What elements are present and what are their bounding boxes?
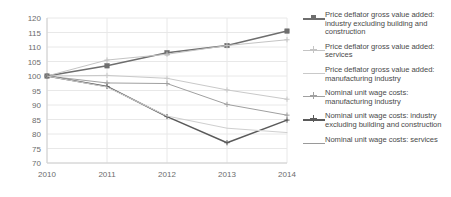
x-tick-label: 2013 [218,170,236,179]
y-tick-label: 70 [32,159,41,168]
legend-item[interactable]: Price deflator gross value added: servic… [303,43,451,60]
legend-item[interactable]: Nominal unit wage costs: industry exclud… [303,112,451,129]
x-tick-label: 2010 [38,170,56,179]
y-tick-label: 120 [28,14,42,23]
legend-item-label: Price deflator gross value added: servic… [325,43,451,60]
y-tick-label: 90 [32,101,41,110]
legend-item[interactable]: Price deflator gross value added: manufa… [303,66,451,83]
legend-item[interactable]: Nominal unit wage costs: manufacturing i… [303,89,451,106]
legend-item[interactable]: Nominal unit wage costs: services [303,136,451,148]
legend-marker-icon [303,139,325,148]
legend-item-label: Price deflator gross value added: manufa… [325,66,451,83]
x-axis-tick-labels: 20102011201220132014 [38,170,296,179]
x-tick-label: 2011 [98,170,116,179]
chart-screenshot: 120115110105100959085807570 201020112012… [0,0,451,197]
y-tick-label: 105 [28,58,42,67]
legend-marker-icon [303,69,325,78]
y-tick-label: 95 [32,87,41,96]
chart-plot-area: 120115110105100959085807570 201020112012… [0,0,300,197]
y-tick-label: 85 [32,116,41,125]
legend-item-label: Nominal unit wage costs: manufacturing i… [325,89,451,106]
y-tick-label: 110 [28,43,41,52]
y-axis-tick-labels: 120115110105100959085807570 [28,14,42,168]
y-tick-label: 75 [32,145,41,154]
data-point-marker [105,64,109,68]
line-chart-svg: 120115110105100959085807570 201020112012… [0,0,300,197]
legend-marker-icon [303,46,325,55]
legend-marker-icon [303,14,325,23]
data-point-marker [285,29,289,33]
legend-marker-icon [303,115,325,124]
legend-marker-icon [303,92,325,101]
y-tick-label: 100 [28,72,42,81]
legend-item-label: Nominal unit wage costs: services [325,136,438,145]
legend-item-label: Nominal unit wage costs: industry exclud… [325,112,451,129]
x-tick-label: 2014 [278,170,296,179]
y-tick-label: 115 [28,29,41,38]
legend-item-label: Price deflator gross value added: indust… [325,11,451,37]
chart-legend: Price deflator gross value added: indust… [303,11,451,154]
legend-item[interactable]: Price deflator gross value added: indust… [303,11,451,37]
y-tick-label: 80 [32,130,41,139]
x-tick-label: 2012 [158,170,176,179]
